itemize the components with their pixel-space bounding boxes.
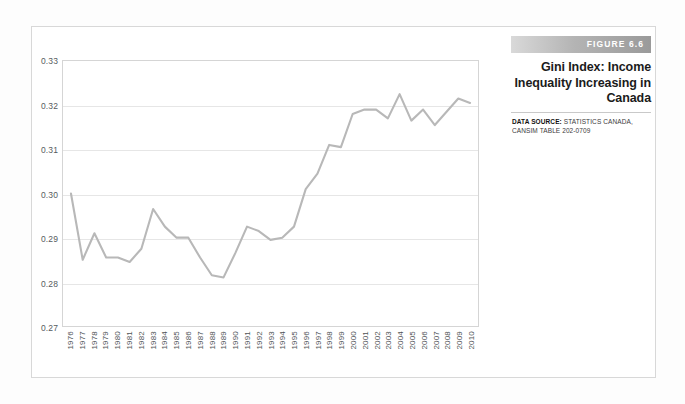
y-axis-tick-label: 0.27 bbox=[41, 323, 58, 333]
figure-title-line-1: Gini Index: Income bbox=[541, 60, 651, 74]
x-axis-tick-label: 1993 bbox=[267, 331, 276, 350]
caption-divider bbox=[511, 112, 651, 113]
x-axis-tick-label: 1981 bbox=[125, 331, 134, 350]
x-axis-tick-label: 1977 bbox=[78, 331, 87, 350]
x-axis-tick-label: 1991 bbox=[243, 331, 252, 350]
x-axis-tick-label: 1994 bbox=[278, 331, 287, 350]
figure-number-banner: FIGURE 6.6 bbox=[511, 36, 651, 53]
x-axis-tick-label: 1983 bbox=[149, 331, 158, 350]
plot-frame: 0.330.320.310.300.290.280.27 bbox=[62, 60, 479, 327]
x-axis-tick-label: 2001 bbox=[361, 331, 370, 350]
x-axis-tick-label: 1990 bbox=[231, 331, 240, 350]
x-axis-tick-label: 2008 bbox=[443, 331, 452, 350]
x-axis-tick-label: 2003 bbox=[384, 331, 393, 350]
y-axis-tick-label: 0.32 bbox=[41, 101, 58, 111]
x-axis-tick-label: 1999 bbox=[337, 331, 346, 350]
x-axis-tick-label: 1995 bbox=[290, 331, 299, 350]
figure-title-line-2: Inequality Increasing in bbox=[514, 76, 651, 90]
x-axis-tick-label: 1986 bbox=[184, 331, 193, 350]
x-axis-tick-label: 2010 bbox=[467, 331, 476, 350]
gini-index-line-series bbox=[63, 61, 478, 326]
y-axis-tick-label: 0.30 bbox=[41, 190, 58, 200]
x-axis-tick-label: 1987 bbox=[196, 331, 205, 350]
x-axis-tick-label: 1982 bbox=[137, 331, 146, 350]
x-axis-tick-label: 2000 bbox=[349, 331, 358, 350]
x-axis-tick-label: 1976 bbox=[66, 331, 75, 350]
x-axis-tick-label: 1988 bbox=[208, 331, 217, 350]
chart-area: 0.330.320.310.300.290.280.27 19761977197… bbox=[40, 55, 485, 355]
x-axis-tick-label: 1984 bbox=[160, 331, 169, 350]
x-axis-tick-label: 2002 bbox=[373, 331, 382, 350]
data-source-label: DATA SOURCE: bbox=[512, 118, 562, 125]
y-axis-tick-label: 0.31 bbox=[41, 145, 58, 155]
figure-caption-panel: FIGURE 6.6 Gini Index: Income Inequality… bbox=[505, 36, 651, 151]
x-axis-tick-label: 1997 bbox=[314, 331, 323, 350]
x-axis-tick-label: 2009 bbox=[455, 331, 464, 350]
x-axis-tick-label: 2004 bbox=[396, 331, 405, 350]
x-axis-tick-label: 2006 bbox=[420, 331, 429, 350]
x-axis-tick-label: 1989 bbox=[219, 331, 228, 350]
data-source-note: DATA SOURCE: STATISTICS CANADA, CANSIM T… bbox=[512, 118, 651, 135]
figure-title: Gini Index: Income Inequality Increasing… bbox=[505, 60, 651, 107]
x-axis-tick-label: 2007 bbox=[432, 331, 441, 350]
x-axis-tick-label: 1992 bbox=[255, 331, 264, 350]
x-axis-tick-label: 1985 bbox=[172, 331, 181, 350]
x-axis-tick-labels: 1976197719781979198019811982198319841985… bbox=[62, 331, 479, 381]
x-axis-tick-label: 1996 bbox=[302, 331, 311, 350]
figure-root: 0.330.320.310.300.290.280.27 19761977197… bbox=[0, 0, 685, 404]
x-axis-tick-label: 1998 bbox=[325, 331, 334, 350]
y-axis-tick-label: 0.28 bbox=[41, 279, 58, 289]
x-axis-tick-label: 1980 bbox=[113, 331, 122, 350]
x-axis-tick-label: 1978 bbox=[90, 331, 99, 350]
figure-title-line-3: Canada bbox=[606, 91, 651, 105]
x-axis-tick-label: 1979 bbox=[101, 331, 110, 350]
x-axis-tick-label: 2005 bbox=[408, 331, 417, 350]
y-axis-tick-label: 0.29 bbox=[41, 234, 58, 244]
y-axis-tick-label: 0.33 bbox=[41, 56, 58, 66]
